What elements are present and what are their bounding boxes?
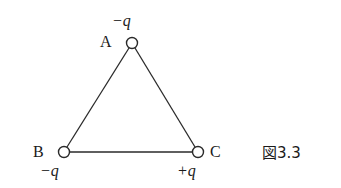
edge-a-b (67, 48, 129, 147)
charge-label-a: −q (112, 12, 131, 30)
triangle-charge-diagram: −q A B −q C +q 図3.3 (0, 0, 341, 188)
charge-label-c: +q (177, 162, 196, 180)
figure-caption: 図3.3 (262, 144, 301, 162)
charge-node-b (59, 147, 70, 158)
vertex-label-c: C (210, 143, 221, 160)
vertex-label-a: A (100, 33, 112, 50)
vertex-label-b: B (33, 143, 44, 160)
charge-label-b: −q (40, 162, 59, 180)
charge-node-c (193, 147, 204, 158)
charge-node-a (127, 38, 138, 49)
edge-a-c (135, 48, 195, 147)
